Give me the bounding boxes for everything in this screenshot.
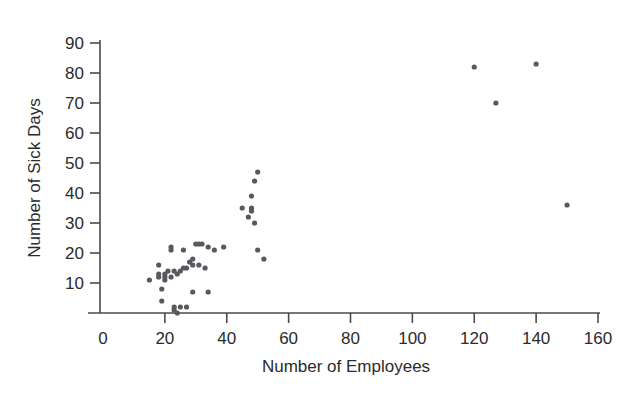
x-tick-label-0: 0	[98, 329, 107, 348]
data-point	[564, 202, 569, 207]
data-point	[249, 208, 254, 213]
x-tick-label-80: 80	[341, 329, 360, 348]
data-point	[156, 262, 161, 267]
x-tick-label-100: 100	[398, 329, 426, 348]
data-point	[184, 304, 189, 309]
data-point	[196, 262, 201, 267]
y-tick-label-40: 40	[65, 184, 84, 203]
x-axis-ticks	[165, 313, 598, 323]
y-axis: 102030405060708090	[65, 34, 100, 313]
data-point	[162, 277, 167, 282]
data-point	[202, 265, 207, 270]
data-point	[190, 289, 195, 294]
y-axis-tick-labels: 102030405060708090	[65, 34, 84, 293]
data-point	[252, 220, 257, 225]
data-point	[159, 298, 164, 303]
x-tick-label-160: 160	[584, 329, 612, 348]
data-point	[159, 286, 164, 291]
y-tick-label-20: 20	[65, 244, 84, 263]
y-tick-label-90: 90	[65, 34, 84, 53]
data-point	[178, 304, 183, 309]
data-point	[212, 247, 217, 252]
data-points-layer	[147, 61, 570, 315]
data-point	[493, 100, 498, 105]
y-tick-label-80: 80	[65, 64, 84, 83]
data-point	[181, 247, 186, 252]
data-point	[249, 193, 254, 198]
y-tick-label-50: 50	[65, 154, 84, 173]
x-axis-tick-labels: 020406080100120140160	[98, 329, 612, 348]
data-point	[221, 244, 226, 249]
y-tick-label-10: 10	[65, 274, 84, 293]
data-point	[199, 241, 204, 246]
y-axis-ticks	[90, 43, 100, 283]
chart-svg: 102030405060708090 020406080100120140160…	[0, 0, 633, 395]
y-tick-label-30: 30	[65, 214, 84, 233]
y-tick-label-70: 70	[65, 94, 84, 113]
data-point	[472, 64, 477, 69]
x-tick-label-140: 140	[522, 329, 550, 348]
y-axis-label: Number of Sick Days	[25, 98, 44, 258]
x-tick-label-120: 120	[460, 329, 488, 348]
data-point	[190, 256, 195, 261]
data-point	[168, 274, 173, 279]
x-axis-label: Number of Employees	[262, 357, 430, 376]
x-tick-label-60: 60	[279, 329, 298, 348]
data-point	[206, 244, 211, 249]
data-point	[534, 61, 539, 66]
data-point	[190, 262, 195, 267]
data-point	[165, 268, 170, 273]
data-point	[240, 205, 245, 210]
scatter-chart: 102030405060708090 020406080100120140160…	[0, 0, 633, 395]
data-point	[246, 214, 251, 219]
top-partial-caption	[96, 0, 516, 8]
data-point	[184, 265, 189, 270]
data-point	[206, 289, 211, 294]
data-point	[147, 277, 152, 282]
x-axis: 020406080100120140160	[88, 313, 612, 348]
data-point	[255, 169, 260, 174]
data-point	[261, 256, 266, 261]
data-point	[252, 178, 257, 183]
data-point	[156, 274, 161, 279]
data-point	[168, 247, 173, 252]
y-tick-label-60: 60	[65, 124, 84, 143]
x-tick-label-40: 40	[217, 329, 236, 348]
data-point	[175, 310, 180, 315]
data-point	[255, 247, 260, 252]
x-tick-label-20: 20	[155, 329, 174, 348]
